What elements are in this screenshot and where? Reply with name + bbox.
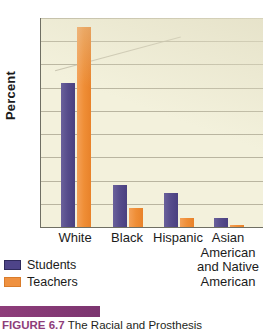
y-axis-title: Percent (3, 64, 18, 128)
bar-group (214, 18, 244, 227)
legend-item: Teachers (4, 273, 78, 290)
x-label-line: Asian (190, 231, 266, 246)
bar (164, 193, 178, 227)
plot-area (40, 18, 263, 228)
figure-caption: FIGURE 6.7 The Racial and Prosthesis (2, 319, 266, 331)
caption-figure-label: FIGURE 6.7 (2, 319, 65, 331)
bar (77, 27, 91, 227)
legend-label: Teachers (27, 275, 78, 289)
legend: StudentsTeachers (4, 256, 78, 290)
bar (180, 218, 194, 227)
bar (230, 225, 244, 227)
bar (214, 218, 228, 227)
caption-rule (0, 306, 100, 317)
bar (113, 185, 127, 227)
x-label-line: American (190, 275, 266, 290)
x-label-line: and Native (190, 260, 266, 275)
legend-swatch (4, 260, 21, 270)
bar (61, 83, 75, 227)
legend-swatch (4, 277, 21, 287)
bar (129, 208, 143, 227)
bar-group (113, 18, 143, 227)
caption-body: The Racial and Prosthesis (68, 319, 202, 331)
x-label-line: American (190, 246, 266, 261)
legend-item: Students (4, 256, 78, 273)
legend-label: Students (27, 258, 76, 272)
bar-group (164, 18, 194, 227)
bar-group (61, 18, 91, 227)
x-category-label: AsianAmericanand NativeAmerican (190, 231, 266, 289)
